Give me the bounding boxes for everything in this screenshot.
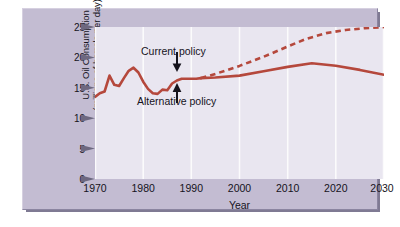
x-axis-tick-labels: 1970 1980 1990 2000 2010 2020 2030 [95,182,384,198]
y-tick-mark-20 [81,54,95,61]
y-tick-mark-10 [81,115,95,122]
y-tick-mark-5 [81,145,95,152]
annotation-alternative-policy: Alternative policy [137,95,216,107]
x-tick-2030: 2030 [362,182,400,194]
y-axis-tick-marks [81,23,97,183]
x-axis-label: Year [95,199,384,211]
annotation-current-policy: Current policy [141,45,206,57]
y-tick-mark-25 [81,24,95,31]
x-tick-1990: 1990 [171,182,211,194]
x-tick-2020: 2020 [316,182,356,194]
x-tick-1980: 1980 [123,182,163,194]
chart-panel: U.S. Oil Consumption (millions of barrel… [22,8,378,210]
y-tick-mark-15 [81,84,95,91]
figure-root: U.S. Oil Consumption (millions of barrel… [0,0,400,227]
x-tick-1970: 1970 [75,182,115,194]
series-alternative-policy-line [201,63,384,78]
x-tick-2000: 2000 [220,182,260,194]
series-historical-line [95,68,201,97]
x-tick-2010: 2010 [268,182,308,194]
